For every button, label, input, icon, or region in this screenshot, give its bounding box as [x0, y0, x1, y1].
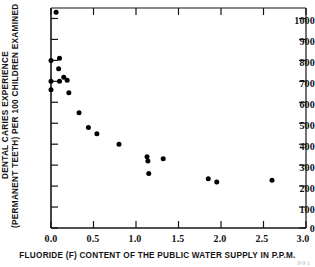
- data-point: [117, 142, 122, 147]
- data-point: [49, 79, 54, 84]
- data-point: [145, 158, 150, 163]
- data-point: [49, 58, 54, 63]
- data-point: [86, 125, 91, 130]
- data-point: [57, 56, 62, 61]
- data-point: [56, 66, 61, 71]
- data-point: [145, 154, 150, 159]
- data-point: [65, 78, 70, 83]
- data-point: [214, 179, 219, 184]
- chart-figure: DENTAL CARIES EXPERIENCE (PERMANENT TEET…: [0, 0, 315, 267]
- data-point: [77, 110, 82, 115]
- data-point: [57, 79, 62, 84]
- data-point: [270, 178, 275, 183]
- data-point: [146, 171, 151, 176]
- data-point: [161, 156, 166, 161]
- scatter-plot-area: [0, 0, 315, 267]
- data-point: [66, 90, 71, 95]
- data-point: [206, 176, 211, 181]
- data-points: [49, 10, 275, 185]
- tick-marks: [51, 8, 306, 228]
- data-point: [94, 131, 99, 136]
- data-point: [54, 10, 59, 15]
- axis-lines: [51, 8, 306, 228]
- data-point: [49, 87, 54, 92]
